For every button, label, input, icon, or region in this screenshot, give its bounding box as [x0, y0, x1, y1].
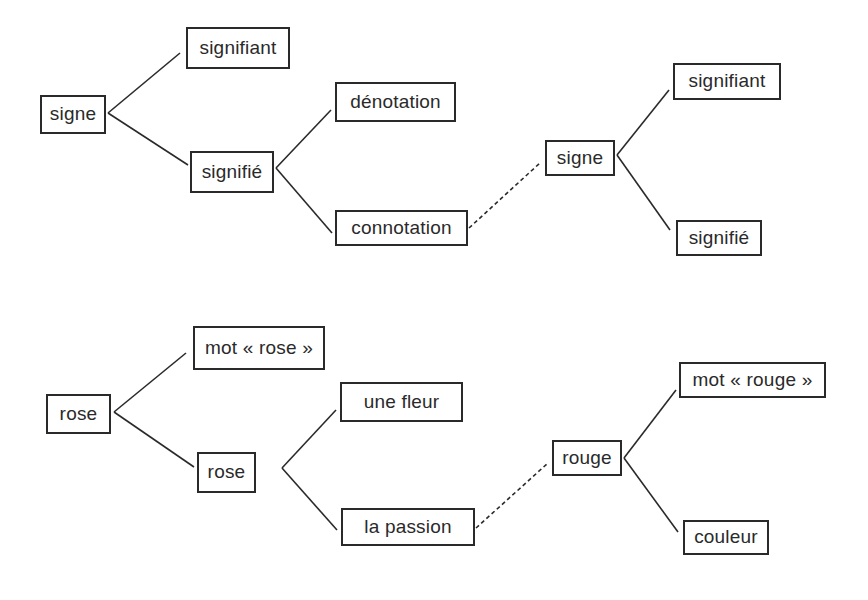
connector-rouge-to-mot_rouge [624, 390, 676, 458]
node-label: la passion [364, 517, 452, 536]
connector-signe-to-signifie [108, 113, 188, 165]
connector-rouge-to-couleur [624, 458, 678, 532]
node-label: signe [557, 148, 603, 167]
connector-rose2-to-la_passion [282, 468, 337, 530]
node-denotation: dénotation [335, 82, 456, 122]
connector-rose-to-mot_rose [114, 353, 186, 412]
node-label: signe [50, 104, 96, 123]
node-signifie2: signifié [676, 220, 762, 256]
node-une-fleur: une fleur [340, 382, 463, 422]
connector-rose-to-rose2 [114, 412, 194, 467]
connector-rose2-to-une_fleur [282, 410, 336, 468]
connector-signe-to-signifiant [108, 53, 180, 113]
node-label: rouge [562, 448, 612, 467]
dashed-connector-connotation-to-signe2 [469, 162, 541, 228]
node-mot-rose: mot « rose » [193, 326, 325, 370]
node-signe2: signe [545, 140, 615, 176]
node-signifie: signifié [190, 151, 274, 193]
node-label: mot « rouge » [693, 370, 813, 389]
node-label: signifiant [200, 38, 277, 57]
node-signifiant2: signifiant [673, 63, 781, 100]
node-la-passion: la passion [341, 508, 475, 546]
dashed-connector-la_passion-to-rouge [476, 463, 548, 528]
node-rose: rose [46, 394, 111, 434]
node-label: une fleur [364, 392, 440, 411]
node-rouge: rouge [552, 440, 622, 476]
semiotic-diagram: signesignifiantsignifiédénotationconnota… [0, 0, 868, 600]
node-label: signifiant [689, 71, 766, 90]
node-label: dénotation [350, 92, 441, 111]
node-label: signifié [202, 162, 263, 181]
node-label: couleur [694, 527, 758, 546]
node-mot-rouge: mot « rouge » [679, 362, 826, 398]
node-label: connotation [351, 218, 451, 237]
node-label: rose [208, 462, 246, 481]
node-label: signifié [689, 228, 750, 247]
node-couleur: couleur [683, 520, 769, 555]
connector-signe2-to-signifie2 [617, 155, 670, 230]
node-signifiant: signifiant [186, 27, 290, 69]
connector-signifie-to-connotation [276, 168, 332, 233]
node-signe: signe [40, 95, 106, 134]
connector-signifie-to-denotation [276, 110, 331, 168]
node-label: rose [60, 404, 98, 423]
node-connotation: connotation [335, 210, 468, 246]
connector-signe2-to-signifiant2 [617, 90, 669, 155]
node-rose2: rose [197, 452, 256, 493]
node-label: mot « rose » [205, 338, 313, 357]
